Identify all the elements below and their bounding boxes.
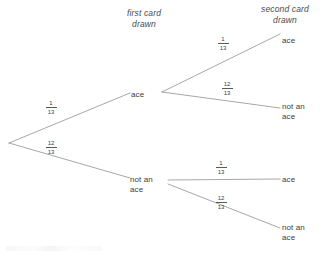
branch-root-to-ace bbox=[9, 93, 130, 143]
probability-branch-ace-not-ace: 12 13 bbox=[220, 81, 234, 96]
fraction-denominator: 13 bbox=[214, 168, 228, 175]
fraction-numerator: 1 bbox=[44, 100, 58, 107]
fraction-numerator: 12 bbox=[220, 81, 234, 88]
probability-root-upper: 1 13 bbox=[44, 100, 58, 115]
fraction-denominator: 13 bbox=[214, 203, 228, 210]
fraction-numerator: 12 bbox=[214, 195, 228, 202]
node-second-card-ace-after-not-an-ace: ace bbox=[282, 175, 295, 185]
branch-root-to-not-ace bbox=[9, 143, 130, 178]
fraction-numerator: 1 bbox=[214, 160, 228, 167]
probability-tree-diagram: first card drawn second card drawn ace n… bbox=[0, 0, 329, 257]
column-header-second-card: second card drawn bbox=[245, 4, 325, 25]
fraction-denominator: 13 bbox=[44, 148, 58, 155]
node-first-card-ace: ace bbox=[131, 90, 144, 100]
fraction-numerator: 1 bbox=[216, 36, 230, 43]
node-second-card-ace-after-ace: ace bbox=[282, 36, 295, 46]
probability-branch-not-ace-not-ace: 12 13 bbox=[214, 195, 228, 210]
branch-not-ace-to-ace bbox=[168, 179, 280, 180]
fraction-numerator: 12 bbox=[44, 140, 58, 147]
scan-artifact-smudge bbox=[6, 246, 102, 251]
column-header-first-card: first card drawn bbox=[104, 8, 184, 29]
fraction-denominator: 13 bbox=[220, 89, 234, 96]
node-second-card-not-an-ace-after-not-an-ace: not an ace bbox=[282, 223, 305, 242]
node-first-card-not-an-ace: not an ace bbox=[130, 175, 153, 194]
fraction-denominator: 13 bbox=[44, 108, 58, 115]
probability-branch-ace-ace: 1 13 bbox=[216, 36, 230, 51]
probability-branch-not-ace-ace: 1 13 bbox=[214, 160, 228, 175]
fraction-denominator: 13 bbox=[216, 44, 230, 51]
tree-branch-lines bbox=[0, 0, 329, 257]
probability-root-lower: 12 13 bbox=[44, 140, 58, 155]
node-second-card-not-an-ace-after-ace: not an ace bbox=[282, 102, 305, 121]
